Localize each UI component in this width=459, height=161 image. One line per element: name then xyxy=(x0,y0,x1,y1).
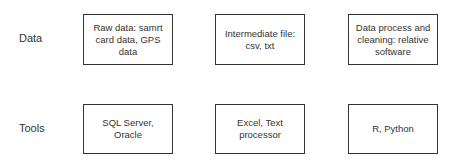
box-text: Raw data: samrt card data, GPS data xyxy=(88,22,168,58)
box-sql-oracle: SQL Server, Oracle xyxy=(83,104,173,154)
row-label-data: Data xyxy=(19,32,42,44)
box-raw-data: Raw data: samrt card data, GPS data xyxy=(83,14,173,65)
box-excel-text: Excel, Text processor xyxy=(215,104,305,154)
box-r-python: R, Python xyxy=(348,104,438,154)
box-text: Intermediate file: csv, txt xyxy=(220,28,300,52)
box-text: Data process and cleaning: relative soft… xyxy=(353,22,433,58)
row-label-tools: Tools xyxy=(19,122,45,134)
box-data-process: Data process and cleaning: relative soft… xyxy=(348,14,438,65)
box-intermediate-file: Intermediate file: csv, txt xyxy=(215,14,305,65)
box-text: Excel, Text processor xyxy=(220,117,300,141)
box-text: SQL Server, Oracle xyxy=(88,117,168,141)
box-text: R, Python xyxy=(372,123,414,135)
